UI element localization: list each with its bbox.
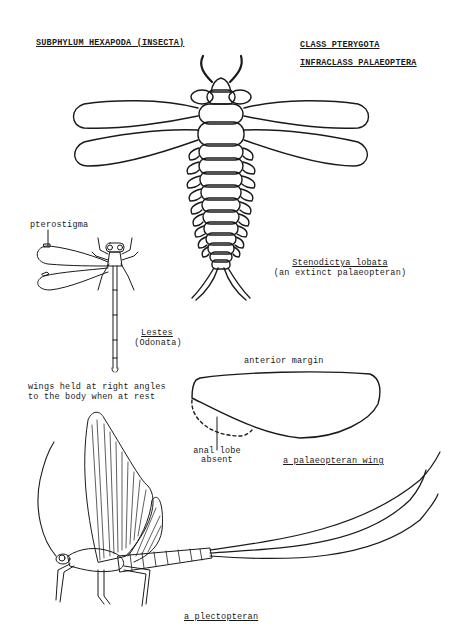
lestes-order: (Odonata) bbox=[132, 338, 184, 348]
lestes-note-line2: to the body when at rest bbox=[28, 392, 155, 402]
palaeopteran-wing-drawing bbox=[192, 372, 380, 450]
lestes-note-line1: wings held at right angles bbox=[28, 382, 166, 392]
plectopteran-drawing bbox=[38, 412, 440, 606]
lestes-drawing bbox=[37, 230, 138, 372]
anal-lobe-label-line2: absent bbox=[192, 455, 242, 465]
illustrations bbox=[0, 0, 453, 636]
stenodictya-caption: (an extinct palaeopteran) bbox=[264, 268, 416, 278]
lestes-name: Lestes bbox=[132, 328, 182, 338]
pterostigma-label: pterostigma bbox=[30, 220, 88, 230]
palaeopteran-wing-caption: a palaeopteran wing bbox=[283, 456, 384, 466]
stenodictya-name: Stenodictya lobata bbox=[270, 258, 410, 268]
stenodictya-name-text: Stenodictya lobata bbox=[292, 258, 387, 268]
anterior-margin-label: anterior margin bbox=[244, 356, 324, 366]
plectopteran-caption: a plectopteran bbox=[184, 612, 258, 622]
lestes-name-text: Lestes bbox=[141, 328, 173, 338]
